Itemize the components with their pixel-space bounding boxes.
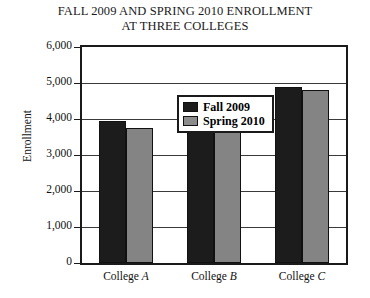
chart-title-line-1: FALL 2009 AND SPRING 2010 ENROLLMENT xyxy=(58,4,313,18)
legend-item-fall-2009: Fall 2009 xyxy=(183,100,265,114)
chart-legend: Fall 2009 Spring 2010 xyxy=(177,95,274,133)
bar-college-c-spring-2010 xyxy=(302,90,329,263)
chart-title: FALL 2009 AND SPRING 2010 ENROLLMENT AT … xyxy=(0,4,370,34)
bar-college-b-spring-2010 xyxy=(214,130,241,263)
x-axis-label-college-c: College C xyxy=(252,270,352,282)
y-axis-tick-label: 2,000 xyxy=(10,183,72,195)
y-axis-tick-label: 5,000 xyxy=(10,75,72,87)
legend-swatch-spring-2010-icon xyxy=(183,116,198,126)
bar-college-a-fall-2009 xyxy=(99,121,126,263)
x-axis-label-college-a: College A xyxy=(76,270,176,282)
y-axis-tick-label: 6,000 xyxy=(10,39,72,51)
y-axis-tick-label: 1,000 xyxy=(10,219,72,231)
y-axis-label: Enrollment xyxy=(21,76,33,196)
y-axis-tick-label: 0 xyxy=(10,255,72,267)
legend-swatch-fall-2009-icon xyxy=(183,102,198,112)
chart-title-line-2: AT THREE COLLEGES xyxy=(0,19,370,34)
bars-layer xyxy=(82,47,346,263)
bar-college-a-spring-2010 xyxy=(126,128,153,263)
legend-label-spring-2010: Spring 2010 xyxy=(203,115,265,128)
legend-label-fall-2009: Fall 2009 xyxy=(203,101,250,114)
legend-item-spring-2010: Spring 2010 xyxy=(183,114,265,128)
x-axis-label-college-b: College B xyxy=(164,270,264,282)
bar-college-c-fall-2009 xyxy=(275,87,302,263)
plot-area: Fall 2009 Spring 2010 xyxy=(80,45,348,265)
y-axis-tick-label: 3,000 xyxy=(10,147,72,159)
y-axis-tick-label: 4,000 xyxy=(10,111,72,123)
